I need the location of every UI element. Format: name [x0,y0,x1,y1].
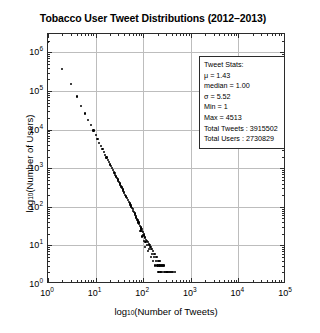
x-tickmark-minor [224,34,225,36]
x-tickmark-minor [231,34,232,36]
x-tickmark-minor [281,34,282,36]
x-tickmark-minor [118,34,119,36]
y-axis-label: log10(Number of Users) [24,89,35,239]
y-tickmark-minor [48,56,50,57]
x-tickmark-minor [91,34,92,36]
x-tickmark-minor [166,280,167,282]
x-tickmark-minor [279,34,280,36]
y-tickmark-minor [48,145,50,146]
data-point [96,138,98,140]
y-tickmark-minor [48,97,50,98]
x-tickmark-minor [228,34,229,36]
x-tickmark-minor [62,34,63,36]
y-tickmark-minor [48,254,50,255]
data-point [152,260,154,262]
x-tickmark-minor [93,280,94,282]
y-tickmark-minor [48,95,50,96]
x-tickmark-minor [124,34,125,36]
y-tickmark-minor [282,170,284,171]
y-tickmark-minor [48,64,50,65]
data-point [147,250,149,252]
x-tickmark-minor [133,280,134,282]
data-point [163,271,165,273]
x-tickmark-minor [284,280,285,282]
y-tickmark-minor [48,174,50,175]
x-tickmark-minor [219,34,220,36]
x-tickmark-minor [71,280,72,282]
y-tickmark-minor [48,111,50,112]
y-tickmark-minor [48,103,50,104]
y-tickmark-minor [48,118,50,119]
x-tickmark-minor [77,34,78,36]
stats-line-max: Max = 4513 [204,113,280,124]
y-tickmark-minor [48,188,50,189]
x-tickmark [143,34,144,38]
grid-line-horizontal [48,245,284,246]
y-tickmark-minor [48,133,50,134]
data-point [103,151,105,153]
stats-line-total-tweets: Total Tweets : 3915502 [204,124,280,135]
x-tickmark-minor [93,34,94,36]
stats-line-total-users: Total Users : 2730829 [204,134,280,145]
x-tickmark-minor [183,280,184,282]
data-point [98,142,100,144]
x-tickmark-minor [136,34,137,36]
x-tickmark-minor [261,280,262,282]
x-axis-label: log10(Number of Tweets) [47,306,285,317]
y-tickmark-minor [48,61,50,62]
x-tickmark-minor [180,280,181,282]
data-point [154,253,156,255]
y-tickmark-minor [48,209,50,210]
stats-line-median: median = 1.00 [204,81,280,92]
x-tickmark-minor [133,34,134,36]
x-tickmark-minor [81,34,82,36]
data-point [90,124,92,126]
x-tickmark-minor [183,34,184,36]
x-tickmark-minor [236,34,237,36]
x-tickmark [48,34,49,38]
x-tick-label: 103 [183,286,197,298]
x-tickmark-minor [110,280,111,282]
y-tickmark-minor [282,195,284,196]
y-tick-label: 100 [29,277,43,289]
y-tickmark-minor [282,222,284,223]
y-tickmark-minor [48,58,50,59]
x-tickmark-minor [141,34,142,36]
x-tickmark-minor [81,280,82,282]
data-point [156,256,158,258]
y-tickmark-minor [48,234,50,235]
y-tickmark-minor [282,251,284,252]
x-tickmark-minor [166,34,167,36]
x-tickmark-minor [279,280,280,282]
y-tickmark-minor [282,218,284,219]
y-tickmark-minor [48,222,50,223]
x-tickmark-minor [118,280,119,282]
x-tickmark-minor [205,34,206,36]
data-point [70,83,72,85]
data-point [100,145,102,147]
x-tickmark [191,278,192,282]
y-tickmark-minor [282,180,284,181]
x-tickmark-minor [231,280,232,282]
y-tickmark-minor [282,184,284,185]
y-tickmark-minor [48,157,50,158]
data-point [174,271,176,273]
data-point [158,264,160,266]
y-tickmark-minor [282,157,284,158]
y-tickmark-minor [48,215,50,216]
x-tickmark-minor [129,280,130,282]
y-tickmark-minor [48,131,50,132]
y-tickmark-minor [282,209,284,210]
grid-line-horizontal [48,52,284,53]
x-tickmark-minor [158,34,159,36]
y-tickmark-minor [282,174,284,175]
y-tickmark-minor [48,100,50,101]
y-tickmark-minor [48,54,50,55]
x-tickmark-minor [186,34,187,36]
y-tickmark-minor [48,184,50,185]
y-tickmark-minor [282,234,284,235]
stats-line-min: Min = 1 [204,102,280,113]
x-tickmark-minor [176,280,177,282]
y-tick-label: 101 [29,238,43,250]
grid-line-horizontal [48,207,284,208]
